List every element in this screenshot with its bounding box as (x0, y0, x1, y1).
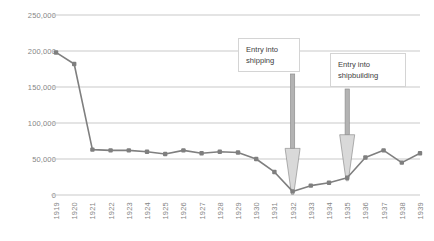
x-axis-tick-label: 1931 (270, 202, 279, 220)
x-axis-tick-label: 1927 (198, 202, 207, 220)
data-point-marker (145, 150, 149, 154)
x-axis-tick-label: 1928 (216, 202, 225, 220)
x-axis-tick-label: 1930 (252, 202, 261, 220)
callout-line-2: shipbuilding (338, 70, 398, 81)
x-axis-tick-label: 1936 (361, 202, 370, 220)
x-axis-tick-label: 1921 (88, 202, 97, 220)
arrow-head (340, 135, 355, 181)
data-point-marker (400, 160, 404, 164)
callout-line-1: Entry into (338, 59, 398, 70)
callout-entry-into-shipbuilding: Entry into shipbuilding (330, 53, 406, 87)
data-point-marker (236, 150, 240, 154)
x-axis-tick-label: 1935 (343, 202, 352, 220)
data-point-marker (108, 148, 112, 152)
arrow-head (285, 148, 300, 194)
data-point-marker (381, 148, 385, 152)
data-point-marker (272, 170, 276, 174)
data-point-marker (309, 183, 313, 187)
x-axis-tick-label: 1929 (234, 202, 243, 220)
data-point-marker (363, 155, 367, 159)
x-axis-tick-label: 1937 (380, 202, 389, 220)
data-point-marker (290, 189, 294, 193)
data-point-marker (181, 148, 185, 152)
data-point-marker (199, 151, 203, 155)
x-axis-tick-label: 1932 (289, 202, 298, 220)
x-axis-tick-label: 1933 (307, 202, 316, 220)
x-axis-tick-label: 1922 (107, 202, 116, 220)
arrow-shaft (345, 89, 349, 135)
x-axis-tick-label: 1938 (398, 202, 407, 220)
data-point-marker (218, 150, 222, 154)
annotation-arrows (285, 74, 355, 194)
y-axis-ticks (51, 15, 56, 195)
callout-entry-into-shipping: Entry into shipping (238, 38, 300, 72)
data-point-marker (345, 176, 349, 180)
x-axis-tick-label: 1924 (143, 202, 152, 220)
x-axis-tick-label: 1939 (416, 202, 425, 220)
callout-line-1: Entry into (246, 44, 292, 55)
data-point-marker (72, 62, 76, 66)
data-point-marker (54, 50, 58, 54)
data-point-marker (90, 147, 94, 151)
data-point-marker (163, 152, 167, 156)
data-point-marker (327, 181, 331, 185)
x-axis-tick-label: 1920 (70, 202, 79, 220)
x-axis-tick-label: 1919 (52, 202, 61, 220)
x-axis-tick-label: 1925 (161, 202, 170, 220)
x-axis-tick-label: 1926 (179, 202, 188, 220)
data-point-marker (418, 151, 422, 155)
callout-line-2: shipping (246, 55, 292, 66)
arrow-shaft (291, 74, 295, 148)
data-point-marker (254, 157, 258, 161)
data-point-marker (127, 148, 131, 152)
line-chart: 250,000 200,000 150,000 100,000 50,000 0… (0, 0, 434, 241)
x-axis-tick-label: 1934 (325, 202, 334, 220)
x-axis-tick-label: 1923 (125, 202, 134, 220)
